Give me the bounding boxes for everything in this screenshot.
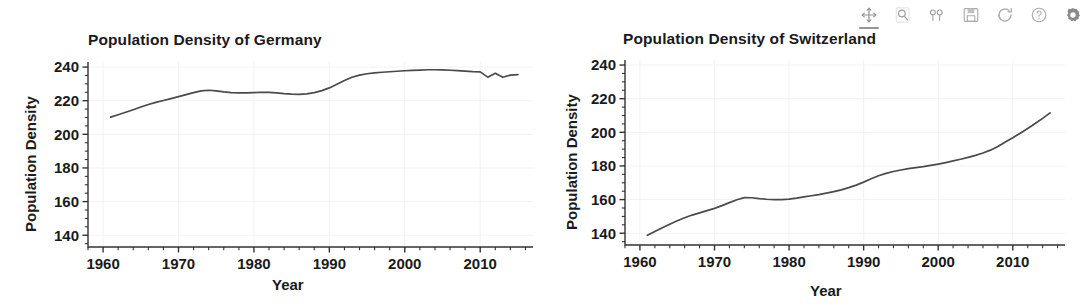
x-tick-label: 1970 [698,253,731,270]
x-tick-label: 1990 [847,253,880,270]
plot-area-germany[interactable]: 1401601802002202401960197019801990200020… [0,0,545,304]
y-tick-label: 140 [54,227,79,244]
x-tick-label: 2010 [464,255,497,272]
y-tick-label: 160 [54,193,79,210]
x-tick-label: 1990 [313,255,346,272]
y-tick-label: 200 [54,126,79,143]
figure-canvas: Population Density of Germany Population… [0,0,1090,304]
x-tick-label: 1980 [772,253,805,270]
x-tick-label: 1960 [86,255,119,272]
data-series-line [111,70,518,117]
chart-panel-switzerland: Population Density of Switzerland Popula… [545,0,1090,304]
x-tick-label: 1960 [623,253,656,270]
x-tick-label: 2000 [922,253,955,270]
data-series-line [647,113,1050,235]
chart-panel-germany: Population Density of Germany Population… [0,0,545,304]
y-tick-label: 200 [591,124,616,141]
x-tick-label: 2000 [388,255,421,272]
y-tick-label: 240 [591,56,616,73]
x-tick-label: 2010 [996,253,1029,270]
y-tick-label: 220 [54,92,79,109]
y-tick-label: 240 [54,58,79,75]
x-tick-label: 1980 [237,255,270,272]
y-tick-label: 160 [591,191,616,208]
plot-area-switzerland[interactable]: 1401601802002202401960197019801990200020… [545,0,1090,304]
x-tick-label: 1970 [162,255,195,272]
y-tick-label: 140 [591,225,616,242]
y-tick-label: 180 [591,157,616,174]
y-tick-label: 180 [54,159,79,176]
y-tick-label: 220 [591,90,616,107]
